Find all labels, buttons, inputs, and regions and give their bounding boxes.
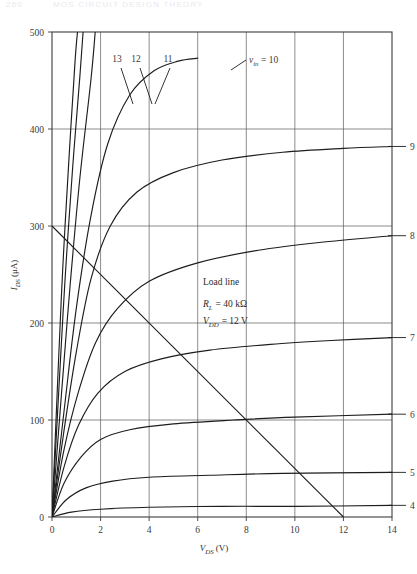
curve-label-8: 8 [410, 231, 415, 241]
curve-label-12: 12 [131, 54, 141, 64]
x-axis-unit: (V) [216, 543, 229, 553]
y-tick-label: 200 [30, 319, 45, 329]
chart-canvas: 02468101214 0100200300400500 98765413121… [0, 0, 417, 574]
y-tick-label: 500 [30, 28, 45, 38]
svg-text:VDS(V): VDS(V) [200, 543, 228, 555]
load-line-annotation-label: Load line [203, 277, 239, 287]
x-tick-label: 12 [339, 525, 349, 535]
curve-vin-9 [52, 146, 392, 517]
leader-line-vin-10 [231, 60, 246, 70]
y-axis-unit: (μA) [9, 260, 19, 277]
figure-mosfet-drain-characteristics: 02468101214 0100200300400500 98765413121… [0, 0, 417, 574]
curve-series-group [52, 32, 392, 517]
load-resistance-annotation: RL= 40 kΩ [202, 299, 247, 311]
annotation-block: Load line RL= 40 kΩ VDD= 12 V [202, 277, 248, 328]
grid-lines [52, 32, 392, 517]
curve-end-labels: 987654131211 [112, 54, 415, 511]
supply-voltage-annotation: VDD= 12 V [203, 316, 248, 328]
x-tick-label: 2 [98, 525, 103, 535]
x-tick-label: 4 [147, 525, 152, 535]
y-tick-labels: 0100200300400500 [30, 28, 45, 523]
curve-vin-11 [52, 32, 95, 517]
y-tick-label: 400 [30, 125, 45, 135]
y-tick-label: 100 [30, 416, 45, 426]
x-tick-labels: 02468101214 [50, 525, 397, 535]
y-tick-label: 0 [39, 513, 44, 523]
curve-vin-12 [52, 32, 83, 517]
x-axis-title: VDS(V) [200, 543, 228, 555]
y-axis-subscript: DS [14, 278, 21, 288]
x-tick-label: 14 [387, 525, 397, 535]
x-axis-subscript: DS [204, 548, 214, 555]
x-tick-label: 0 [50, 525, 55, 535]
x-tick-label: 10 [290, 525, 300, 535]
curve-vin-7 [52, 338, 392, 517]
curve-label-13: 13 [112, 54, 122, 64]
y-tick-label: 300 [30, 222, 45, 232]
curve-label-11: 11 [163, 54, 172, 64]
svg-text:IDS(μA): IDS(μA) [9, 260, 21, 292]
vin-equals-ten-label: vin= 10 [249, 55, 278, 67]
leader-line-11 [155, 68, 170, 104]
curve-vin-6 [52, 414, 392, 517]
y-axis-title: IDS(μA) [9, 260, 21, 292]
curve-label-7: 7 [410, 333, 415, 343]
x-tick-label: 8 [244, 525, 249, 535]
curve-label-5: 5 [410, 468, 415, 478]
curve-vin-5 [52, 472, 392, 517]
curve-label-9: 9 [410, 142, 415, 152]
label-leader-lines [121, 60, 406, 505]
plot-frame [52, 32, 392, 517]
curve-label-6: 6 [410, 410, 415, 420]
curve-vin-10 [52, 58, 198, 517]
inline-vin-label: vin= 10 [249, 55, 278, 67]
x-tick-label: 6 [195, 525, 200, 535]
curve-label-4: 4 [410, 501, 415, 511]
